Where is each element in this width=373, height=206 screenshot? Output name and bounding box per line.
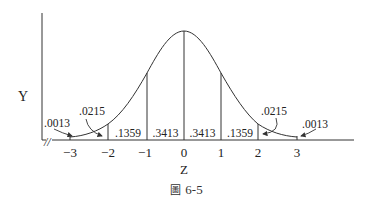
- area-label-m1-0: .3413: [153, 127, 179, 139]
- tick-label-2: 2: [255, 145, 262, 160]
- area-label-m2-m1: .1359: [115, 127, 141, 139]
- normal-distribution-chart: // Y −3 −2 −1 0 1 2 3 Z .1359 .3413 .341…: [0, 0, 373, 206]
- y-axis-label: Y: [18, 89, 28, 104]
- axis-break-marker: //: [43, 135, 52, 149]
- tick-label-minus-3: −3: [63, 145, 77, 160]
- area-label-right-0215: .0215: [261, 105, 287, 117]
- arrow-right-tail: [301, 129, 316, 136]
- x-axis-label: Z: [180, 162, 188, 177]
- tick-label-minus-2: −2: [101, 145, 115, 160]
- figure-caption: 圖6-5: [0, 181, 373, 198]
- tick-label-3: 3: [294, 145, 301, 160]
- arrow-left-tail: [54, 129, 72, 136]
- area-label-0-p1: .3413: [190, 127, 216, 139]
- figure-caption-number: 6-5: [185, 182, 202, 197]
- area-label-right-tail: .0013: [302, 118, 328, 130]
- tick-label-minus-1: −1: [138, 145, 152, 160]
- area-label-left-0215: .0215: [79, 105, 105, 117]
- tick-label-1: 1: [218, 145, 225, 160]
- area-label-p1-p2: .1359: [227, 127, 253, 139]
- tick-label-0: 0: [181, 145, 188, 160]
- area-label-left-tail: .0013: [44, 117, 70, 129]
- arrow-right-0215: [263, 118, 277, 134]
- figure-caption-prefix: 圖: [170, 184, 181, 197]
